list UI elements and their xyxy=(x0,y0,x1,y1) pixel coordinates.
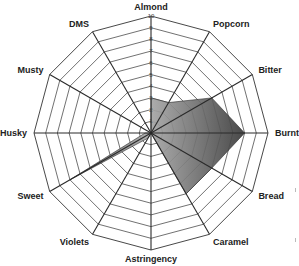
axis-label-astringency: Astringency xyxy=(125,254,177,264)
axis-label-bitter: Bitter xyxy=(258,65,282,75)
axis-label-bread: Bread xyxy=(258,191,284,201)
spoke-line xyxy=(50,133,151,192)
spoke-line xyxy=(93,32,152,133)
tick-label: 7 xyxy=(149,48,153,54)
axis-label-dms: DMS xyxy=(69,19,89,29)
spoke-line xyxy=(50,75,151,134)
radar-chart: 12345678910 AlmondPopcornBitterBurntBrea… xyxy=(0,0,299,266)
tick-label: 6 xyxy=(149,60,153,66)
axis-label-musty: Musty xyxy=(18,65,44,75)
tick-label: 9 xyxy=(149,25,153,31)
axis-label-popcorn: Popcorn xyxy=(213,19,250,29)
tick-label: 5 xyxy=(149,72,153,78)
axis-label-burnt: Burnt xyxy=(275,128,299,138)
edge-artifact xyxy=(295,188,296,192)
tick-label: 4 xyxy=(149,83,153,89)
axis-label-almond: Almond xyxy=(134,2,168,12)
tick-label: 10 xyxy=(148,13,155,19)
axis-label-violets: Violets xyxy=(60,237,89,247)
tick-label: 8 xyxy=(149,36,153,42)
edge-artifact xyxy=(295,238,296,242)
axis-label-husky: Husky xyxy=(0,128,27,138)
axis-label-sweet: Sweet xyxy=(18,191,44,201)
axis-label-caramel: Caramel xyxy=(213,237,249,247)
